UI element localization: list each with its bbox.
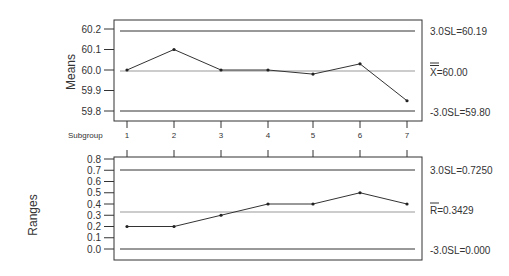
ranges-center-label: R=0.3429 (430, 205, 474, 216)
y-tick-label: 0.3 (87, 210, 101, 221)
data-point (219, 68, 222, 71)
data-point (311, 73, 314, 76)
y-tick-label: 0.0 (87, 244, 101, 255)
ranges-lcl-label: -3.0SL=0.000 (430, 245, 491, 256)
x-tick-label: 1 (125, 131, 130, 140)
means-ucl-label: 3.0SL=60.19 (430, 26, 487, 37)
y-tick-label: 59.8 (82, 106, 102, 117)
subgroup-ticks: 1234567 (125, 121, 410, 157)
means-axis-label: Means (64, 54, 78, 90)
ranges-points (125, 191, 408, 228)
data-point (405, 99, 408, 102)
data-point (358, 191, 361, 194)
x-tick-label: 5 (311, 131, 316, 140)
data-point (219, 214, 222, 217)
x-tick-label: 3 (219, 131, 224, 140)
ranges-y-axis: 0.80.70.60.50.40.30.20.10.0 (87, 154, 114, 255)
means-y-axis: 60.260.160.059.959.8 (82, 24, 114, 117)
means-series (127, 50, 407, 101)
y-tick-label: 0.2 (87, 221, 101, 232)
y-tick-label: 0.5 (87, 187, 101, 198)
y-tick-label: 0.7 (87, 165, 101, 176)
y-tick-label: 0.1 (87, 232, 101, 243)
means-points (125, 48, 408, 102)
y-tick-label: 60.1 (82, 44, 102, 55)
x-tick-label: 2 (172, 131, 177, 140)
y-tick-label: 60.0 (82, 65, 102, 76)
y-tick-label: 0.4 (87, 199, 101, 210)
x-tick-label: 4 (266, 131, 271, 140)
x-tick-label: 7 (405, 131, 410, 140)
ranges-chart: 0.80.70.60.50.40.30.20.10.0 Ranges 3.0SL… (26, 154, 493, 261)
data-point (405, 202, 408, 205)
data-point (358, 62, 361, 65)
means-lcl-label: -3.0SL=59.80 (430, 107, 491, 118)
data-point (125, 68, 128, 71)
ranges-plot-frame (114, 157, 422, 260)
subgroup-axis: Subgroup 1234567 (68, 121, 410, 157)
data-point (125, 225, 128, 228)
y-tick-label: 60.2 (82, 24, 102, 35)
y-tick-label: 0.6 (87, 176, 101, 187)
ranges-ucl-label: 3.0SL=0.7250 (430, 165, 493, 176)
x-tick-label: 6 (358, 131, 363, 140)
data-point (172, 48, 175, 51)
subgroup-label: Subgroup (68, 131, 103, 140)
data-point (266, 202, 269, 205)
means-chart: 60.260.160.059.959.8 Means 3.0SL=60.19 X… (64, 20, 491, 121)
y-tick-label: 59.9 (82, 85, 102, 96)
data-point (266, 68, 269, 71)
means-center-label: X=60.00 (430, 67, 468, 78)
data-point (172, 225, 175, 228)
data-point (311, 202, 314, 205)
y-tick-label: 0.8 (87, 154, 101, 165)
ranges-series (127, 193, 407, 227)
control-chart: 60.260.160.059.959.8 Means 3.0SL=60.19 X… (0, 0, 509, 276)
ranges-axis-label: Ranges (26, 194, 40, 235)
